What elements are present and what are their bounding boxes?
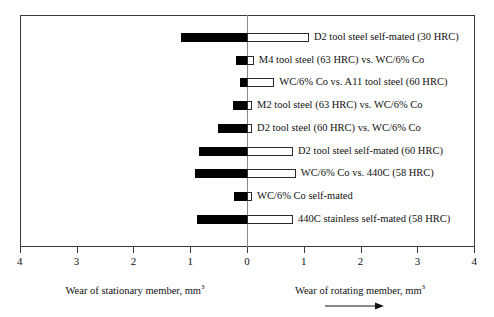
axis-tick: [133, 247, 134, 253]
axis-tick-label: 1: [292, 255, 316, 268]
table-row: D2 tool steel self-mated (30 HRC): [0, 33, 494, 55]
bar-rotating-member: [247, 33, 309, 42]
bar-rotating-member: [247, 215, 293, 224]
table-row: M4 tool steel (63 HRC) vs. WC/6% Co: [0, 56, 494, 78]
table-row: WC/6% Co self-mated: [0, 192, 494, 214]
table-row: WC/6% Co vs. 440C (58 HRC): [0, 169, 494, 191]
bar-stationary-member: [195, 169, 247, 178]
bar-stationary-member: [218, 124, 247, 133]
axis-tick: [190, 247, 191, 253]
axis-tick: [77, 247, 78, 253]
axis-tick-label: 4: [462, 255, 486, 268]
bar-rotating-member: [247, 147, 293, 156]
table-row: D2 tool steel self-mated (60 HRC): [0, 147, 494, 169]
axis-tick: [247, 247, 248, 253]
bar-stationary-member: [233, 101, 247, 110]
bar-category-label: WC/6% Co vs. A11 tool steel (60 HRC): [279, 75, 447, 89]
bar-rotating-member: [247, 56, 254, 65]
axis-tick-label: 2: [121, 255, 145, 268]
axis-tick-label: 2: [349, 255, 373, 268]
table-row: D2 tool steel (60 HRC) vs. WC/6% Co: [0, 124, 494, 146]
bar-rotating-member: [247, 124, 252, 133]
axis-tick-label: 3: [65, 255, 89, 268]
bar-category-label: D2 tool steel self-mated (60 HRC): [298, 144, 443, 158]
bar-rotating-member: [247, 169, 296, 178]
bar-category-label: M4 tool steel (63 HRC) vs. WC/6% Co: [259, 53, 424, 67]
axis-tick-label: 1: [178, 255, 202, 268]
bar-rotating-member: [247, 101, 252, 110]
bar-category-label: D2 tool steel (60 HRC) vs. WC/6% Co: [257, 121, 421, 135]
axis-tick: [361, 247, 362, 253]
table-row: M2 tool steel (63 HRC) vs. WC/6% Co: [0, 101, 494, 123]
bar-stationary-member: [240, 78, 247, 87]
bar-stationary-member: [181, 33, 247, 42]
axis-tick: [20, 247, 21, 253]
axis-tick: [417, 247, 418, 253]
table-row: 440C stainless self-mated (58 HRC): [0, 215, 494, 237]
bar-category-label: 440C stainless self-mated (58 HRC): [298, 212, 450, 226]
bar-rotating-member: [247, 78, 274, 87]
bar-category-label: WC/6% Co self-mated: [257, 189, 353, 203]
x-axis-label-left: Wear of stationary member, mm3: [30, 280, 240, 298]
bar-stationary-member: [236, 56, 247, 65]
table-row: WC/6% Co vs. A11 tool steel (60 HRC): [0, 78, 494, 100]
axis-tick-label: 0: [235, 255, 259, 268]
direction-arrow-icon: [325, 298, 385, 310]
bar-category-label: D2 tool steel self-mated (30 HRC): [314, 30, 459, 44]
axis-tick-label: 3: [405, 255, 429, 268]
axis-tick: [304, 247, 305, 253]
axis-tick-label: 4: [8, 255, 32, 268]
axis-tick: [474, 247, 475, 253]
bar-category-label: WC/6% Co vs. 440C (58 HRC): [301, 166, 434, 180]
bar-stationary-member: [197, 215, 247, 224]
wear-comparison-chart: D2 tool steel self-mated (30 HRC)M4 tool…: [0, 0, 494, 317]
bar-rotating-member: [247, 192, 252, 201]
bar-stationary-member: [234, 192, 247, 201]
bar-category-label: M2 tool steel (63 HRC) vs. WC/6% Co: [257, 98, 422, 112]
bar-stationary-member: [199, 147, 247, 156]
bar-rows-container: D2 tool steel self-mated (30 HRC)M4 tool…: [0, 15, 494, 247]
x-axis-label-right: Wear of rotating member, mm3: [255, 280, 465, 298]
